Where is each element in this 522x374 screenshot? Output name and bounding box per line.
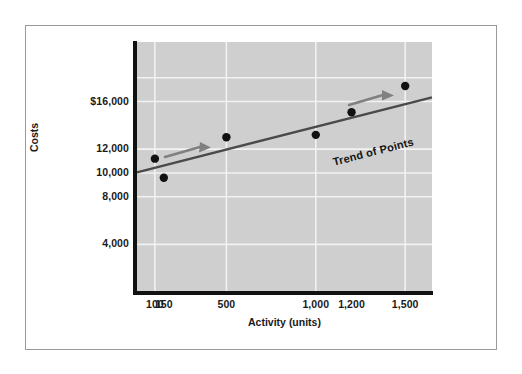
- data-point: [222, 133, 230, 141]
- plot-area: Trend of Points: [137, 42, 432, 292]
- plot-canvas: [137, 42, 432, 292]
- x-axis-title: Activity (units): [137, 316, 432, 328]
- trend-line: [137, 97, 432, 172]
- x-tick-label: 1,500: [392, 298, 419, 310]
- data-point: [401, 82, 409, 90]
- y-tick-label: $16,000: [90, 95, 129, 107]
- y-tick-label: 10,000: [96, 166, 129, 178]
- x-axis-line: [133, 291, 433, 295]
- y-tick-label: 4,000: [102, 237, 129, 249]
- direction-arrow-right: [349, 90, 394, 105]
- data-point: [312, 131, 320, 139]
- y-axis-title: Costs: [28, 123, 40, 152]
- y-axis-line: [133, 41, 137, 295]
- data-point: [347, 108, 355, 116]
- data-points: [151, 82, 410, 182]
- x-tick-label: 1,200: [338, 298, 365, 310]
- gridlines: [137, 42, 432, 292]
- x-tick-label: 150: [155, 298, 173, 310]
- x-tick-label: 500: [217, 298, 235, 310]
- y-tick-label: 8,000: [102, 190, 129, 202]
- y-tick-label: 12,000: [96, 142, 129, 154]
- trend-line-path: [137, 97, 432, 172]
- data-point: [151, 154, 159, 162]
- x-tick-label: 1,000: [302, 298, 329, 310]
- figure-container: Trend of Points 4,0008,00010,00012,000$1…: [0, 0, 522, 374]
- data-point: [160, 174, 168, 182]
- trend-direction-arrows: [165, 90, 394, 157]
- y-tick-labels: 4,0008,00010,00012,000$16,000: [55, 0, 129, 374]
